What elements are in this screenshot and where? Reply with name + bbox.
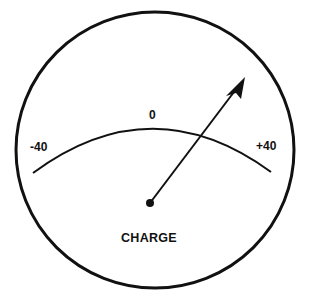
needle <box>150 84 240 203</box>
gauge-bezel <box>16 12 294 288</box>
scale-arc <box>33 129 271 173</box>
gauge-title: CHARGE <box>121 232 177 244</box>
needle-pivot <box>146 199 154 207</box>
scale-center-label: 0 <box>149 109 156 121</box>
scale-max-label: +40 <box>256 140 276 152</box>
needle-arrowhead-icon <box>226 77 245 99</box>
scale-min-label: -40 <box>30 141 47 153</box>
